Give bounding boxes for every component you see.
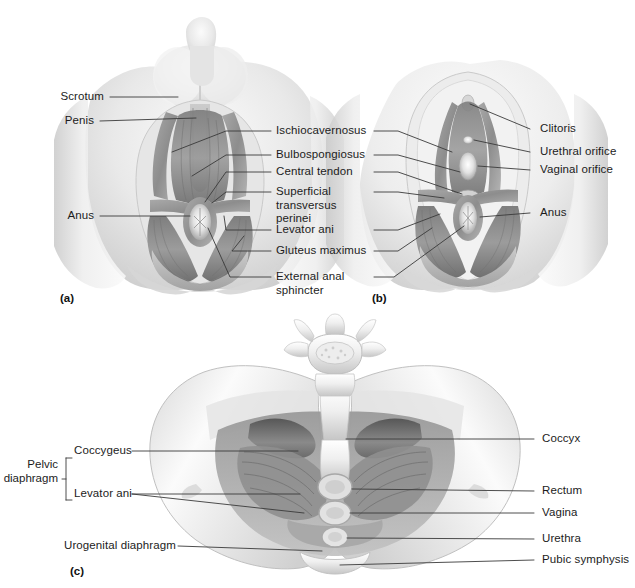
label-levator-ani-ab: Levator ani: [276, 223, 334, 237]
leader-penis: [100, 118, 196, 121]
label-coccygeus: Coccygeus: [74, 444, 132, 458]
panel-letter-a: (a): [60, 292, 74, 304]
label-urethral-orifice: Urethral orifice: [540, 145, 616, 159]
leader-bulbospongiosus-a: [192, 155, 271, 176]
leader-gluteus-b: [374, 228, 432, 251]
label-urogenital-diaphragm: Urogenital diaphragm: [64, 539, 176, 553]
leader-bulbospongiosus-b: [374, 155, 460, 172]
label-bulbospongiosus: Bulbospongiosus: [276, 148, 365, 162]
leader-clitoris: [470, 104, 530, 129]
leader-eas-a: [208, 228, 271, 277]
leader-anus-b: [480, 213, 530, 217]
panel-letter-b: (b): [372, 292, 387, 304]
anatomy-figure: Scrotum Penis Anus Ischiocavernosus Bulb…: [0, 0, 635, 588]
label-anus-b: Anus: [540, 206, 567, 220]
label-ischiocavernosus: Ischiocavernosus: [276, 124, 366, 138]
label-scrotum: Scrotum: [4, 90, 104, 104]
leader-gluteus-a: [232, 236, 271, 251]
leader-levator-ani-b: [374, 214, 440, 230]
leader-urethra: [347, 538, 534, 539]
label-levator-ani-c: Levator ani: [74, 487, 132, 501]
leader-ischiocavernosus-b: [374, 131, 452, 152]
leader-levator-ani-a: [224, 216, 271, 230]
label-urethra: Urethra: [542, 532, 581, 546]
leader-vaginal-orifice: [478, 166, 530, 170]
leader-superficial-b: [374, 192, 444, 198]
label-central-tendon: Central tendon: [276, 165, 353, 179]
leader-urogenital-diaphragm: [178, 546, 322, 551]
label-penis: Penis: [4, 114, 94, 128]
label-external-anal-sphincter: External anal sphincter: [276, 270, 344, 297]
label-vaginal-orifice: Vaginal orifice: [540, 163, 613, 177]
label-gluteus-maximus: Gluteus maximus: [276, 244, 366, 258]
bracket-vertical: [66, 458, 72, 500]
leader-central-tendon-a: [205, 172, 271, 202]
leader-eas-b: [374, 226, 464, 277]
label-pelvic-diaphragm: Pelvic diaphragm: [0, 458, 58, 485]
leader-central-tendon-b: [374, 172, 462, 194]
leader-levator-ani-c-bottom: [132, 494, 304, 513]
leader-rectum: [352, 489, 534, 491]
leader-ischiocavernosus-a: [172, 131, 271, 152]
leader-urethral-orifice: [474, 140, 530, 152]
label-anus-a: Anus: [4, 209, 94, 223]
label-superficial-transversus-perinei: Superficial transversus perinei: [276, 185, 337, 226]
leader-pubic-symphysis: [340, 560, 534, 565]
label-vagina: Vagina: [542, 506, 578, 520]
label-coccyx: Coccyx: [542, 432, 580, 446]
label-rectum: Rectum: [542, 484, 582, 498]
label-clitoris: Clitoris: [540, 122, 576, 136]
label-pubic-symphysis: Pubic symphysis: [542, 553, 629, 567]
panel-letter-c: (c): [70, 565, 84, 577]
leader-superficial-a: [212, 192, 271, 203]
